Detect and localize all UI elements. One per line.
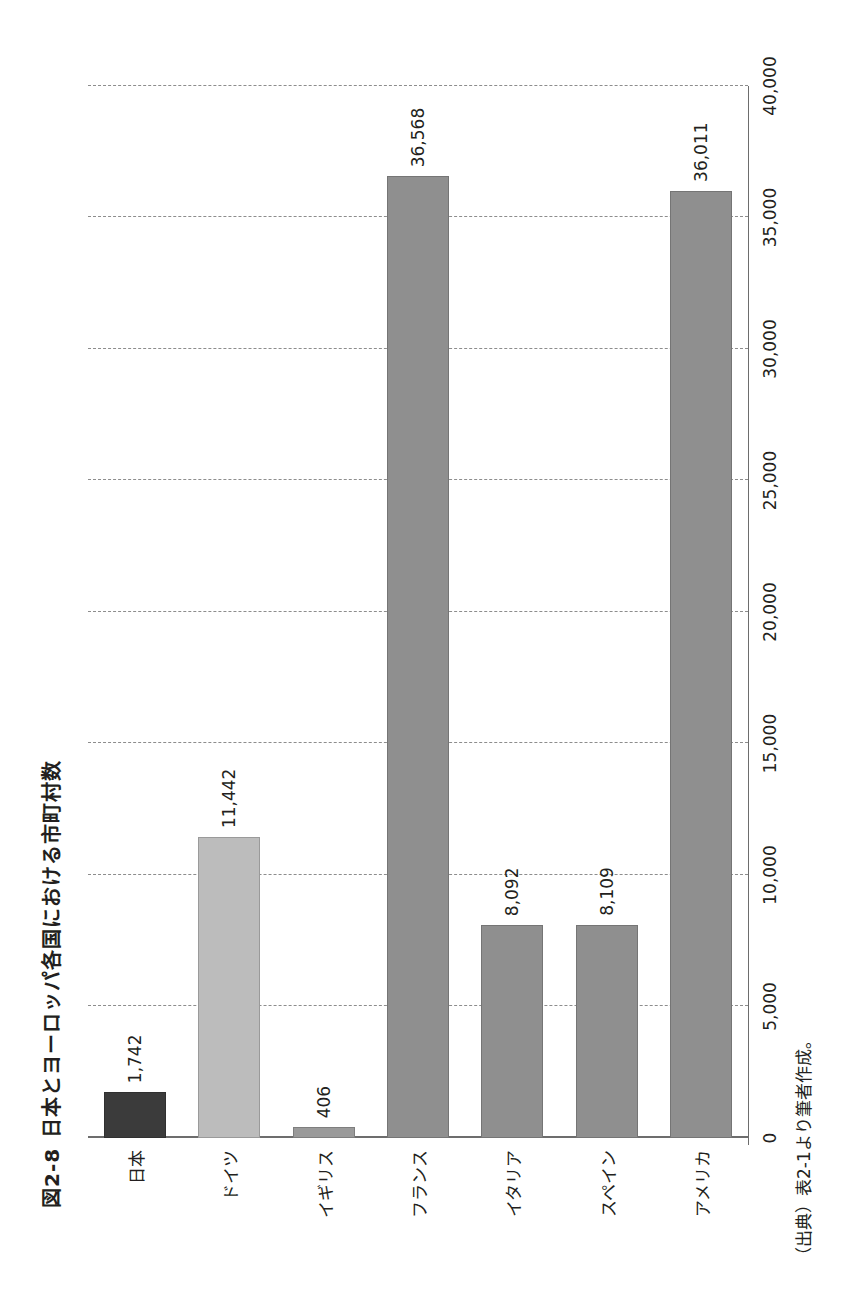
bar-value-label: 8,109 bbox=[597, 867, 617, 916]
axis-tick-label: 25,000 bbox=[760, 451, 780, 510]
bar-row: 406イギリス bbox=[293, 86, 355, 1138]
bar-row: 8,109スペイン bbox=[576, 86, 638, 1138]
axis-tick-label: 35,000 bbox=[760, 188, 780, 247]
source-note: （出典）表2-1より筆者作成。 bbox=[790, 1032, 815, 1264]
rotated-figure-canvas: 図2-8日本とヨーロッパ各国における市町村数 05,00010,00015,00… bbox=[0, 0, 854, 1306]
bar-イギリス bbox=[293, 1127, 355, 1138]
bar-スペイン bbox=[576, 925, 638, 1138]
figure-number: 図2-8 bbox=[40, 1148, 64, 1208]
category-label-スペイン: スペイン bbox=[594, 1150, 619, 1217]
bar-row: 8,092イタリア bbox=[481, 86, 543, 1138]
category-label-イギリス: イギリス bbox=[311, 1150, 336, 1218]
category-label-アメリカ: アメリカ bbox=[688, 1150, 713, 1217]
figure-title-text: 日本とヨーロッパ各国における市町村数 bbox=[40, 760, 64, 1138]
axis-tick-label: 5,000 bbox=[760, 982, 780, 1031]
bar-value-label: 36,568 bbox=[408, 108, 428, 167]
bar-value-label: 406 bbox=[314, 1086, 334, 1118]
bar-value-label: 8,092 bbox=[502, 868, 522, 917]
bar-value-label: 36,011 bbox=[691, 122, 711, 181]
axis-tick-label: 30,000 bbox=[760, 319, 780, 378]
bar-value-label: 11,442 bbox=[219, 769, 239, 828]
bar-フランス bbox=[387, 176, 449, 1138]
chart-plot-area: 05,00010,00015,00020,00025,00030,00035,0… bbox=[88, 86, 748, 1138]
bar-row: 11,442ドイツ bbox=[198, 86, 260, 1138]
bar-value-label: 1,742 bbox=[125, 1035, 145, 1084]
category-label-イタリア: イタリア bbox=[500, 1150, 525, 1217]
bar-イタリア bbox=[481, 925, 543, 1138]
axis-tick-label: 40,000 bbox=[760, 56, 780, 115]
category-axis-line bbox=[748, 86, 749, 1138]
axis-tick-label: 15,000 bbox=[760, 714, 780, 773]
bar-ドイツ bbox=[198, 837, 260, 1138]
category-label-日本: 日本 bbox=[123, 1150, 148, 1184]
category-label-フランス: フランス bbox=[406, 1150, 431, 1218]
bar-row: 1,742日本 bbox=[104, 86, 166, 1138]
axis-tick-label: 10,000 bbox=[760, 845, 780, 904]
axis-tick-label: 20,000 bbox=[760, 582, 780, 641]
bar-アメリカ bbox=[670, 191, 732, 1138]
figure-title: 図2-8日本とヨーロッパ各国における市町村数 bbox=[36, 760, 65, 1208]
axis-tick-label: 0 bbox=[760, 1133, 780, 1144]
bar-日本 bbox=[104, 1092, 166, 1138]
category-label-ドイツ: ドイツ bbox=[217, 1150, 242, 1201]
bar-row: 36,568フランス bbox=[387, 86, 449, 1138]
axis-tick bbox=[748, 1138, 749, 1145]
bar-row: 36,011アメリカ bbox=[670, 86, 732, 1138]
